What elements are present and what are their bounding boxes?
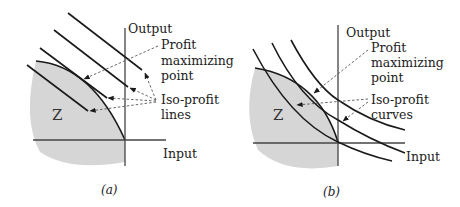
y-axis-label-b: Output xyxy=(346,25,390,40)
annotation-profit-max-a-3: point xyxy=(161,68,194,83)
figure: Output Profit maximizing point Iso-profi… xyxy=(0,0,460,207)
annotation-isoprofit-a-1: Iso-profit xyxy=(161,92,219,107)
annotation-profit-max-b-2: maximizing xyxy=(371,55,444,70)
annotation-profit-max-b-1: Profit xyxy=(371,40,406,55)
x-axis-label-a: Input xyxy=(163,146,197,161)
annotation-profit-max-b-3: point xyxy=(371,70,404,85)
region-label-b: Z xyxy=(273,106,283,124)
production-set-region xyxy=(249,68,338,168)
panel-a: Output Profit maximizing point Iso-profi… xyxy=(27,13,234,197)
annotation-isoprofit-a-2: lines xyxy=(161,107,191,122)
caption-b: (b) xyxy=(323,185,340,199)
caption-a: (a) xyxy=(101,183,118,197)
annotation-profit-max-a-2: maximizing xyxy=(161,53,234,68)
annotation-isoprofit-b-2: curves xyxy=(371,107,413,122)
region-label-a: Z xyxy=(52,106,62,124)
x-axis-label-b: Input xyxy=(406,149,440,164)
y-axis-label-a: Output xyxy=(128,21,172,36)
panel-b: Output Profit maximizing point Iso-profi… xyxy=(249,25,444,199)
annotation-profit-max-a-1: Profit xyxy=(161,37,196,52)
annotation-isoprofit-b-1: Iso-profit xyxy=(371,92,429,107)
